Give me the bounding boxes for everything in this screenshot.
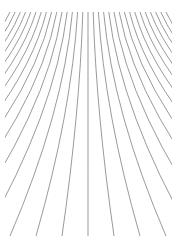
line-fan-figure (0, 0, 177, 248)
